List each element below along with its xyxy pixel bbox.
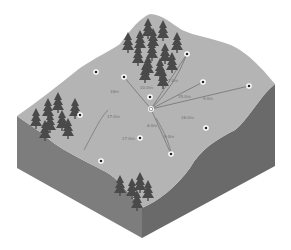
survey-point-icon	[203, 125, 209, 131]
terrain-svg: 18m10.0m7.0m15.0m9.0m16.0m17.0m6.0m17.0m…	[0, 0, 291, 250]
distance-label: 17.0m	[107, 114, 120, 119]
survey-point-icon	[246, 83, 252, 89]
survey-point-icon	[93, 69, 99, 75]
distance-label: 7.0m	[168, 78, 178, 83]
survey-point-icon	[184, 51, 190, 57]
survey-point-icon	[77, 112, 83, 118]
terrain-diagram: 18m10.0m7.0m15.0m9.0m16.0m17.0m6.0m17.0m…	[0, 0, 291, 250]
hub-point-icon	[148, 106, 154, 112]
distance-label: 18m	[110, 89, 119, 94]
distance-label: 9.0m	[203, 96, 213, 101]
survey-point-icon	[137, 135, 143, 141]
distance-label: 10.0m	[140, 85, 153, 90]
survey-point-icon	[121, 74, 127, 80]
distance-label: 9.0m	[164, 134, 174, 139]
distance-label: 15.0m	[178, 94, 191, 99]
distance-label: 6.0m	[147, 123, 157, 128]
survey-point-icon	[168, 151, 174, 157]
distance-label: 16.0m	[181, 115, 194, 120]
survey-point-icon	[200, 79, 206, 85]
distance-label: 17.0m	[122, 136, 135, 141]
survey-point-icon	[98, 158, 104, 164]
survey-point-icon	[147, 94, 153, 100]
